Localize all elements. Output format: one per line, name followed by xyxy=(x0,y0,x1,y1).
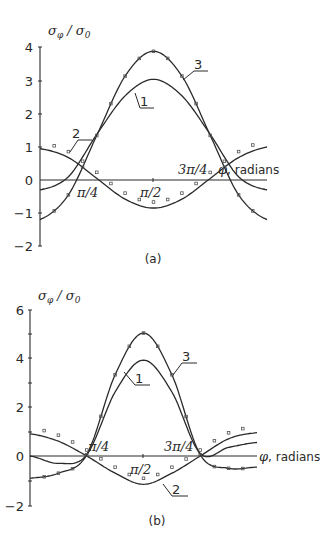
figure: σφ / σ0 4 3 2 1 0 −1 −2 π/4 π/2 3π/4 φ, … xyxy=(0,0,331,533)
curve-label-2-a: 2 xyxy=(72,126,80,141)
chart-a: σφ / σ0 4 3 2 1 0 −1 −2 π/4 π/2 3π/4 φ, … xyxy=(14,23,279,266)
curve-label-3-b: 3 xyxy=(182,349,190,364)
curve-1-b xyxy=(30,360,257,464)
curve-label-2-b: 2 xyxy=(172,482,180,497)
leader-3-a xyxy=(183,71,208,80)
curve-label-1-a: 1 xyxy=(140,94,148,109)
chart-b: σφ / σ0 6 4 2 0 −2 π/4 π/2 3π/4 φ, radia… xyxy=(5,288,320,528)
panel-label-a: (a) xyxy=(145,252,162,266)
y-tick-labels-a: 4 3 2 1 0 −1 −2 xyxy=(14,40,33,254)
tick-3pi4-b: 3π/4 xyxy=(164,439,193,454)
svg-text:−1: −1 xyxy=(14,206,33,221)
curve-label-3-a: 3 xyxy=(194,57,202,72)
curve-label-1-b: 1 xyxy=(135,371,143,386)
svg-text:1: 1 xyxy=(25,140,33,155)
svg-text:2: 2 xyxy=(25,107,33,122)
panel-label-b: (b) xyxy=(149,514,166,528)
tick-pi2-b: π/2 xyxy=(129,462,151,477)
y-axis-label-b: σφ / σ0 xyxy=(38,288,81,305)
svg-text:4: 4 xyxy=(16,351,24,366)
tick-3pi4-a: 3π/4 xyxy=(178,162,207,177)
svg-text:0: 0 xyxy=(25,173,33,188)
tick-pi4-a: π/4 xyxy=(76,185,98,200)
svg-text:4: 4 xyxy=(25,40,33,55)
y-tick-labels-b: 6 4 2 0 −2 xyxy=(5,303,24,514)
svg-text:−2: −2 xyxy=(14,239,33,254)
tick-pi2-a: π/2 xyxy=(139,185,161,200)
y-axis-label-a: σφ / σ0 xyxy=(48,23,91,40)
x-axis-label-b: φ, radians xyxy=(259,449,320,464)
svg-text:6: 6 xyxy=(16,303,24,318)
leader-3-b xyxy=(173,363,197,375)
svg-text:0: 0 xyxy=(16,449,24,464)
svg-text:2: 2 xyxy=(16,400,24,415)
svg-text:3: 3 xyxy=(25,74,33,89)
svg-text:−2: −2 xyxy=(5,499,24,514)
